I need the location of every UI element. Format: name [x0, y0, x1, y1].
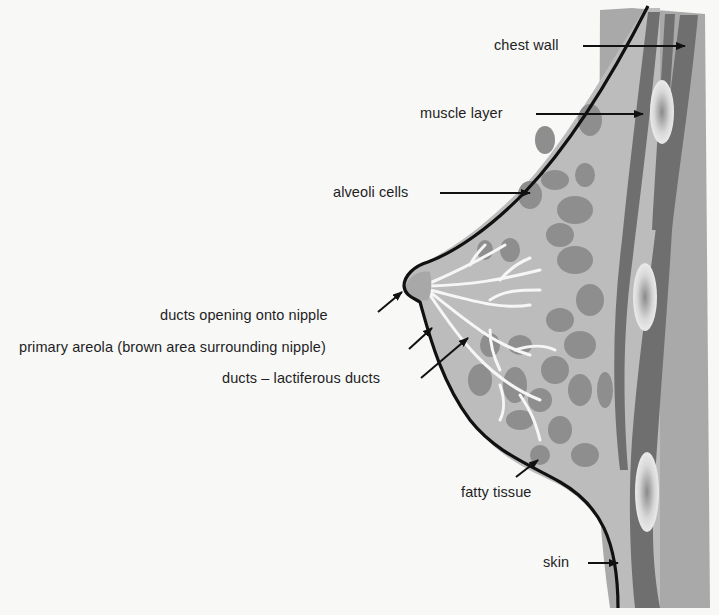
label-skin: skin [543, 554, 569, 570]
label-alveoli-cells: alveoli cells [333, 184, 408, 200]
label-lactiferous-ducts: ducts – lactiferous ducts [222, 370, 380, 386]
label-ducts-opening: ducts opening onto nipple [160, 307, 328, 323]
arrow-ducts-opening [378, 292, 402, 312]
arrow-areola [409, 328, 432, 349]
label-muscle-layer: muscle layer [420, 105, 503, 121]
label-fatty-tissue: fatty tissue [461, 484, 532, 500]
breast-anatomy-diagram: chest wall muscle layer alveoli cells du… [0, 0, 719, 615]
label-chest-wall: chest wall [494, 37, 559, 53]
label-primary-areola: primary areola (brown area surrounding n… [19, 339, 326, 355]
anatomy-illustration [0, 0, 719, 615]
